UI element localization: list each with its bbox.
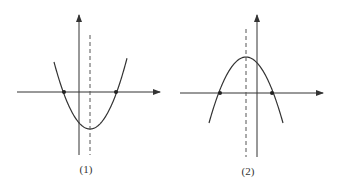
- root-point: [62, 90, 66, 94]
- diagram-canvas: [0, 0, 339, 188]
- root-point: [114, 90, 118, 94]
- graph-2: [180, 15, 323, 157]
- root-point: [218, 91, 222, 95]
- graph-1: [17, 15, 160, 155]
- graph-2-label: (2): [242, 165, 255, 177]
- graph-1-label: (1): [80, 163, 93, 175]
- root-point: [270, 91, 274, 95]
